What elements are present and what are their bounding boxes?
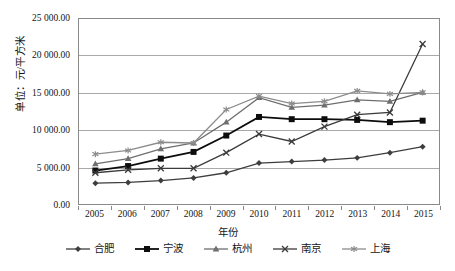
legend-label: 宁波 [163, 243, 183, 255]
y-tick-label: 25 000.00 [32, 13, 70, 23]
y-tick-label: 5 000.00 [37, 163, 70, 173]
x-tick-label: 2010 [250, 208, 269, 220]
x-tick-label: 2009 [217, 208, 236, 220]
line-chart: 单位：元/平方米 0.005 000.0010 000.0015 000.002… [0, 0, 455, 271]
data-point-diamond [354, 155, 360, 161]
x-tick-label: 2015 [414, 208, 433, 220]
legend-label: 南京 [301, 243, 321, 255]
data-point-square [289, 116, 295, 122]
x-tick-mark [243, 206, 244, 210]
series-0 [92, 144, 425, 186]
data-point-square [144, 246, 150, 252]
legend-item-宁波[interactable]: 宁波 [134, 243, 183, 255]
x-tick-label: 2014 [381, 208, 400, 220]
x-axis-title: 年份 [0, 224, 455, 239]
legend-item-上海[interactable]: 上海 [341, 243, 390, 255]
data-point-diamond [256, 160, 262, 166]
x-tick-mark [144, 206, 145, 210]
data-point-square [321, 116, 327, 122]
x-tick-label: 2011 [283, 208, 302, 220]
x-tick-mark [341, 206, 342, 210]
legend-item-南京[interactable]: 南京 [272, 243, 321, 255]
x-tick-mark [210, 206, 211, 210]
data-point-square [387, 119, 393, 125]
y-tick-label: 0.00 [53, 200, 70, 210]
data-point-x-cross [223, 150, 229, 156]
y-tick-label: 10 000.00 [32, 125, 70, 135]
data-point-diamond [92, 180, 98, 186]
legend-marker-triangle-icon [203, 243, 229, 255]
data-point-square [191, 149, 197, 155]
data-point-square [354, 117, 360, 123]
legend-marker-asterisk-icon [341, 243, 367, 255]
data-point-diamond [321, 157, 327, 163]
x-tick-mark [78, 206, 79, 210]
data-point-square [420, 118, 426, 124]
x-tick-label: 2012 [315, 208, 334, 220]
x-tick-mark [177, 206, 178, 210]
x-tick-mark [407, 206, 408, 210]
data-point-diamond [125, 179, 131, 185]
x-tick-label: 2005 [85, 208, 104, 220]
legend-label: 合肥 [94, 243, 114, 255]
data-point-diamond [289, 159, 295, 165]
legend-marker-x-cross-icon [272, 243, 298, 255]
legend-label: 上海 [370, 243, 390, 255]
data-point-diamond [387, 150, 393, 156]
series-line [95, 92, 422, 163]
data-point-diamond [158, 178, 164, 184]
data-point-diamond [75, 246, 81, 252]
x-tick-mark [374, 206, 375, 210]
data-point-x-cross [321, 124, 327, 130]
x-tick-label: 2006 [118, 208, 137, 220]
data-point-square [256, 114, 262, 120]
series-layer [79, 18, 439, 204]
y-tick-label: 20 000.00 [32, 50, 70, 60]
x-tick-mark [440, 206, 441, 210]
data-point-x-cross [420, 41, 426, 47]
chart-legend: 合肥宁波杭州南京上海 [0, 243, 455, 255]
data-point-square [223, 133, 229, 139]
legend-item-杭州[interactable]: 杭州 [203, 243, 252, 255]
data-point-diamond [191, 175, 197, 181]
x-tick-mark [275, 206, 276, 210]
data-point-square [158, 156, 164, 162]
legend-item-合肥[interactable]: 合肥 [65, 243, 114, 255]
series-4 [92, 88, 425, 157]
legend-marker-square-icon [134, 243, 160, 255]
plot-area [78, 18, 440, 205]
y-tick-label: 15 000.00 [32, 88, 70, 98]
legend-marker-diamond-icon [65, 243, 91, 255]
legend-label: 杭州 [232, 243, 252, 255]
x-tick-label: 2013 [348, 208, 367, 220]
data-point-diamond [223, 170, 229, 176]
x-tick-label: 2007 [151, 208, 170, 220]
x-tick-mark [308, 206, 309, 210]
x-axis-tick-labels: 2005200620072008200920102011201220132014… [78, 206, 440, 226]
x-tick-label: 2008 [184, 208, 203, 220]
data-point-diamond [420, 144, 426, 150]
x-tick-mark [111, 206, 112, 210]
